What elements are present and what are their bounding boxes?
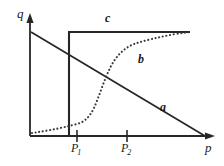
- tick-label-p2-subscript: 2: [127, 148, 131, 157]
- x-axis-arrowhead: [205, 132, 215, 139]
- curve-c: [69, 32, 190, 136]
- curve-a: [31, 32, 205, 136]
- supply-demand-figure: q p a b c P1 P2: [0, 0, 224, 166]
- y-axis: [26, 13, 33, 136]
- curve-c-path: [69, 32, 190, 136]
- plot-canvas: [0, 0, 224, 166]
- tick-label-p2: P2: [121, 142, 131, 157]
- y-axis-arrowhead: [26, 13, 33, 23]
- curve-label-c: c: [105, 12, 110, 24]
- tick-label-p1-subscript: 1: [77, 148, 81, 157]
- curve-label-a: a: [160, 101, 166, 113]
- tick-label-p1: P1: [71, 142, 81, 157]
- y-axis-label: q: [17, 7, 24, 20]
- x-axis-label: p: [205, 141, 212, 154]
- curve-a-path: [31, 32, 205, 136]
- x-axis: [30, 132, 215, 139]
- curve-label-b: b: [138, 53, 144, 65]
